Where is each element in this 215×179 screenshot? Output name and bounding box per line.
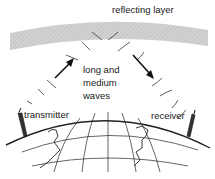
receiver-mast-icon — [187, 110, 195, 137]
upward-arrow — [55, 58, 74, 78]
waves-label-line2: medium — [83, 76, 119, 89]
transmitter-label: transmitter — [24, 109, 69, 120]
reflecting-layer-label: reflecting layer — [112, 4, 174, 15]
receiver-label: receiver — [151, 110, 185, 121]
globe — [6, 112, 210, 172]
waves-label-line3: waves — [83, 89, 119, 102]
downward-arrow — [133, 55, 154, 79]
reflecting-layer-band — [10, 22, 208, 50]
waves-label: long and medium waves — [83, 63, 119, 102]
waves-label-line1: long and — [83, 63, 119, 76]
